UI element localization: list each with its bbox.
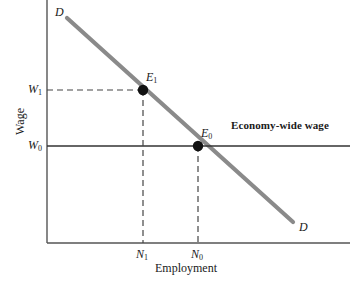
x-tick-n1-base: N xyxy=(136,247,144,261)
x-tick-n0-base: N xyxy=(191,247,199,261)
y-tick-w1-base: W xyxy=(28,82,38,96)
x-tick-label-n0: N0 xyxy=(191,248,203,260)
y-tick-label-w0: W0 xyxy=(28,139,42,151)
point-marker-e0 xyxy=(193,141,203,151)
diagram-canvas xyxy=(0,0,357,284)
x-tick-n0-sub: 0 xyxy=(199,253,203,262)
economy-wide-wage-label: Economy-wide wage xyxy=(231,120,329,131)
y-axis-title: Wage xyxy=(14,108,26,135)
x-tick-n1-sub: 1 xyxy=(144,253,148,262)
point-e0-sub: 0 xyxy=(208,132,212,141)
point-label-e1: E1 xyxy=(146,71,157,83)
y-tick-w0-sub: 0 xyxy=(38,144,42,153)
y-tick-w1-sub: 1 xyxy=(38,88,42,97)
labor-demand-diagram: Wage Employment W1 W0 N1 N0 E1 E0 D D Ec… xyxy=(0,0,357,284)
demand-curve-label-top: D xyxy=(55,6,64,18)
point-e1-sub: 1 xyxy=(153,76,157,85)
x-tick-label-n1: N1 xyxy=(136,248,148,260)
y-tick-label-w1: W1 xyxy=(28,83,42,95)
x-axis-title: Employment xyxy=(155,262,217,274)
point-marker-e1 xyxy=(138,85,148,95)
demand-curve-label-bottom: D xyxy=(299,221,308,233)
point-label-e0: E0 xyxy=(201,127,212,139)
y-tick-w0-base: W xyxy=(28,138,38,152)
